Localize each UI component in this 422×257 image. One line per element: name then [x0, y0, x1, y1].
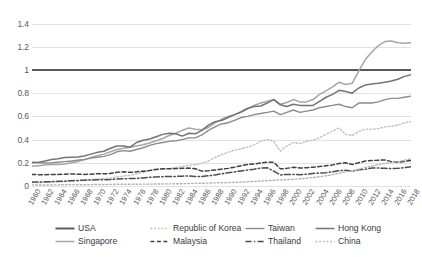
legend-item-usa[interactable]: USA — [55, 222, 96, 235]
x-tick-label: 2002 — [301, 188, 316, 206]
x-tick-label: 1974 — [119, 188, 134, 206]
x-tick-label: 1984 — [184, 188, 199, 206]
legend-key-line — [245, 224, 265, 233]
series-line-china — [32, 159, 411, 185]
x-tick-label: 2004 — [315, 188, 330, 206]
x-tick-label: 1994 — [249, 188, 264, 206]
series-line-malaysia — [32, 160, 411, 175]
series-line-republic-of-korea — [32, 122, 411, 183]
x-tick-label: 1968 — [79, 188, 94, 206]
y-tick-label: 1.4 — [17, 19, 29, 28]
y-tick-label: 1 — [24, 66, 29, 75]
legend-key-line — [55, 237, 75, 246]
legend-label: Malaysia — [173, 237, 207, 246]
x-tick-label: 1966 — [66, 188, 81, 206]
legend-label: Singapore — [78, 237, 117, 246]
series-lines-svg — [32, 12, 411, 186]
legend-label: Republic of Korea — [173, 224, 241, 233]
legend-label: Taiwan — [268, 224, 295, 233]
x-tick-label: 1992 — [236, 188, 251, 206]
legend-label: Thailand — [268, 237, 301, 246]
legend-label: Hong Kong — [338, 224, 381, 233]
x-tick-label: 1976 — [132, 188, 147, 206]
x-tick-label: 1980 — [158, 188, 173, 206]
x-tick-label: 1986 — [197, 188, 212, 206]
legend-item-hong-kong[interactable]: Hong Kong — [315, 222, 381, 235]
x-tick-label: 1960 — [27, 188, 42, 206]
legend-key-line — [55, 224, 75, 233]
x-tick-label: 1988 — [210, 188, 225, 206]
chart-legend: USARepublic of KoreaTaiwanHong Kong Sing… — [0, 222, 413, 254]
x-tick-label: 1962 — [40, 188, 55, 206]
x-tick-label: 1998 — [275, 188, 290, 206]
x-axis-tick-labels: 1960196219641966196819701972197419761978… — [32, 186, 411, 226]
legend-row-2: SingaporeMalaysiaThailandChina — [0, 235, 413, 248]
legend-key-line — [245, 237, 265, 246]
legend-item-china[interactable]: China — [315, 235, 360, 248]
x-tick-label: 2010 — [354, 188, 369, 206]
x-tick-label: 1964 — [53, 188, 68, 206]
legend-item-taiwan[interactable]: Taiwan — [245, 222, 295, 235]
legend-item-republic-of-korea[interactable]: Republic of Korea — [150, 222, 241, 235]
series-line-singapore — [32, 41, 411, 166]
legend-item-malaysia[interactable]: Malaysia — [150, 235, 207, 248]
y-tick-label: 1.2 — [17, 43, 29, 52]
legend-item-singapore[interactable]: Singapore — [55, 235, 117, 248]
x-tick-label: 1990 — [223, 188, 238, 206]
legend-key-line — [315, 224, 335, 233]
x-tick-label: 1982 — [171, 188, 186, 206]
x-tick-label: 1996 — [262, 188, 277, 206]
x-tick-label: 2012 — [367, 188, 382, 206]
y-tick-label: 0.2 — [17, 159, 29, 168]
y-axis-tick-labels: 00.20.40.60.811.21.4 — [0, 12, 29, 186]
legend-key-line — [150, 237, 170, 246]
series-line-taiwan — [32, 96, 411, 163]
legend-label: USA — [78, 224, 96, 233]
y-tick-label: 0.8 — [17, 89, 29, 98]
x-tick-label: 2018 — [406, 188, 421, 206]
legend-key-line — [150, 224, 170, 233]
legend-key-line — [315, 237, 335, 246]
y-tick-label: 0 — [24, 182, 29, 191]
legend-item-thailand[interactable]: Thailand — [245, 235, 301, 248]
legend-row-1: USARepublic of KoreaTaiwanHong Kong — [0, 222, 413, 235]
y-tick-label: 0.6 — [17, 112, 29, 121]
x-tick-label: 2014 — [380, 188, 395, 206]
series-lines-container — [32, 12, 411, 186]
x-tick-label: 2016 — [393, 188, 408, 206]
y-tick-label: 0.4 — [17, 135, 29, 144]
line-chart-plot-area: 00.20.40.60.811.21.4 — [0, 0, 413, 190]
legend-label: China — [338, 237, 360, 246]
